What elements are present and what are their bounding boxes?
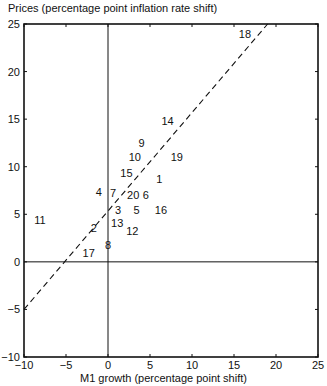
x-tick-label: 0 xyxy=(105,359,111,371)
point-label-16: 16 xyxy=(155,204,167,216)
y-tick-label: 5 xyxy=(14,208,20,220)
point-label-18: 18 xyxy=(239,28,251,40)
x-tick-label: 20 xyxy=(270,359,282,371)
point-label-19: 19 xyxy=(171,151,183,163)
x-tick-label: 15 xyxy=(228,359,240,371)
point-label-3: 3 xyxy=(115,204,121,216)
point-label-10: 10 xyxy=(129,151,141,163)
y-tick-label: 20 xyxy=(8,66,20,78)
point-label-11: 11 xyxy=(34,214,45,226)
point-label-13: 13 xyxy=(111,217,123,229)
point-label-12: 12 xyxy=(126,225,138,237)
point-label-8: 8 xyxy=(105,239,111,251)
x-tick-label: 25 xyxy=(312,359,324,371)
point-label-9: 9 xyxy=(139,137,145,149)
point-label-17: 17 xyxy=(83,247,95,259)
point-label-14: 14 xyxy=(162,115,174,127)
y-tick-label: −5 xyxy=(7,303,20,315)
y-tick-label: 10 xyxy=(8,161,20,173)
point-label-4: 4 xyxy=(96,186,102,198)
point-label-7: 7 xyxy=(110,187,116,199)
dashed-fit-line xyxy=(24,24,268,309)
point-label-1: 1 xyxy=(156,173,162,185)
point-label-5: 5 xyxy=(133,204,139,216)
scatter-chart: −10−50510152025−10−505101520251234567891… xyxy=(0,0,327,386)
plot-frame xyxy=(24,24,318,357)
point-label-6: 6 xyxy=(143,189,149,201)
x-tick-label: 5 xyxy=(147,359,153,371)
y-tick-label: 15 xyxy=(8,113,20,125)
y-tick-label: 0 xyxy=(14,256,20,268)
point-label-2: 2 xyxy=(91,222,97,234)
x-tick-label: −5 xyxy=(60,359,73,371)
y-tick-label: 25 xyxy=(8,18,20,30)
y-tick-label: −10 xyxy=(1,351,20,363)
point-label-20: 20 xyxy=(127,189,139,201)
x-tick-label: 10 xyxy=(186,359,198,371)
x-axis-title: M1 growth (percentage point shift) xyxy=(0,372,327,384)
point-label-15: 15 xyxy=(120,167,132,179)
